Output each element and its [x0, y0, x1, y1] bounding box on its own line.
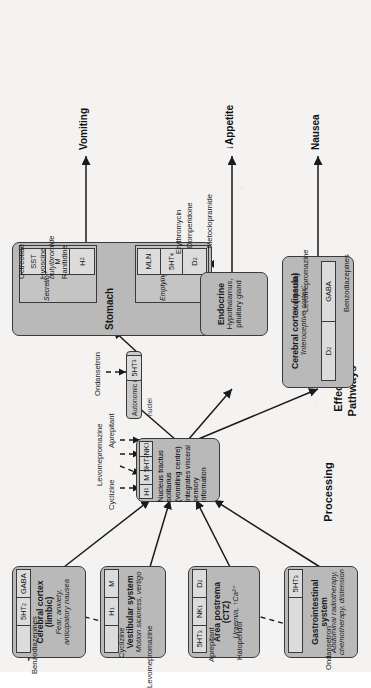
- node-gastrointestinal-system[interactable]: 5HT3 Gastrointestinal system Abdominal r…: [284, 566, 358, 658]
- drug-label-benzodiazepines-limbic: Benzodiazepines: [31, 616, 39, 674]
- drug-label-haloperidol-insula: Haloperidol: [292, 274, 300, 312]
- receptor-amn-5ht3[interactable]: 5HT3: [126, 355, 142, 381]
- node-area-postrema[interactable]: 5HT3 NK1 D2 Area postrema (CTZ) Uraemia,…: [188, 566, 260, 658]
- section-label-processing: Processing: [322, 452, 334, 532]
- receptor-insula-d2[interactable]: D2: [322, 321, 335, 380]
- node-cerebral-cortex-limbic[interactable]: 5HT2 GABA Cerebral cortex (limbic) Fear,…: [12, 566, 86, 658]
- drug-label-domperidone-stomach: Domperidone: [186, 202, 194, 248]
- node-sub-endocrine-2: pituitary gland: [235, 273, 244, 335]
- output-label-appetite: ↓Appetite: [224, 105, 235, 150]
- node-sub-nts-1: Integrates visceral sensory: [184, 438, 200, 502]
- nts-text-block: Nucleus tractus solitarius (vomiting cen…: [157, 438, 208, 502]
- drug-label-cyclizine-vestibular: Cyclizine: [118, 628, 126, 658]
- drug-label-levomepromazine-insula: Levomepromazine: [302, 250, 310, 312]
- output-label-vomiting: Vomiting: [78, 108, 89, 150]
- drug-label-cyclizine-nts: Cyclizine: [108, 480, 116, 510]
- receptor-nts-m[interactable]: M: [140, 470, 152, 484]
- drug-label-metoclopramide-stomach: Metoclopramide: [206, 194, 214, 248]
- receptor-gi-blank[interactable]: [289, 597, 302, 652]
- receptor-stomach-mln[interactable]: MLN: [138, 249, 161, 274]
- drug-label-hyoscine-butylbromide-2: butylbromide: [48, 236, 56, 279]
- receptor-nts-nk1[interactable]: NK1: [140, 442, 152, 456]
- node-title-nts-1: Nucleus tractus solitarius: [157, 438, 174, 502]
- receptor-ctz-5ht3[interactable]: 5HT3: [193, 625, 206, 652]
- node-sub-limbic-2: anticipatory nausea: [63, 567, 72, 657]
- receptor-row-limbic: 5HT2 GABA: [16, 569, 31, 653]
- drug-label-aprepitant-ctz: Aprepitant: [208, 627, 216, 662]
- edge-triggers-to-nts: [64, 500, 320, 567]
- drug-label-erythromycin-stomach: Erythromycin: [175, 210, 183, 254]
- drug-label-aprepitant-nts: Aprepitant: [108, 413, 116, 448]
- receptor-insula-gaba[interactable]: GABA: [322, 262, 335, 321]
- receptor-row-gi: 5HT3: [288, 569, 303, 653]
- drug-label-levomepromazine-nts: Levomepromazine: [96, 424, 104, 486]
- receptor-ctz-d2[interactable]: D2: [193, 570, 206, 597]
- receptor-ctz-nk1[interactable]: NK1: [193, 597, 206, 624]
- receptor-vestibular-m[interactable]: M: [105, 570, 118, 597]
- node-sub-nts-2: information: [200, 438, 208, 502]
- receptor-row-secretions: SST M H2: [21, 248, 95, 275]
- group-label-secretions: Secretions: [43, 277, 50, 301]
- group-label-emptying: Emptying: [159, 277, 166, 301]
- receptor-nts-5ht2[interactable]: 5HT2: [140, 456, 152, 471]
- receptor-gi-5ht3[interactable]: 5HT3: [289, 570, 302, 597]
- receptor-stomach-d2[interactable]: D2: [183, 249, 206, 274]
- node-vestibular-system[interactable]: H1 M Vestibular system Motion sickness, …: [100, 566, 166, 658]
- drug-label-benzodiazepines-insula: Benzodiazepines: [343, 254, 351, 312]
- edge-nts-to-effectors: [130, 389, 318, 440]
- drug-label-levomepromazine-vestibular: Levomepromazine: [146, 626, 154, 688]
- output-label-nausea: Nausea: [310, 114, 321, 150]
- receptor-vestibular-h1[interactable]: H1: [105, 597, 118, 624]
- drug-label-ondansetron-amn: Ondansetron: [94, 352, 102, 396]
- receptor-row-nts: H1 M 5HT2 NK1: [139, 441, 153, 499]
- drug-label-ondansetron-gi: Ondansetron: [325, 626, 333, 670]
- receptor-limbic-5ht2[interactable]: 5HT2: [17, 597, 30, 624]
- receptor-row-insula: D2 GABA: [321, 261, 336, 381]
- node-sub-gi-2: chemotherapy, distension: [338, 567, 347, 657]
- drug-label-octreotide-stomach: Octreotide: [18, 244, 26, 279]
- receptor-limbic-gaba[interactable]: GABA: [17, 570, 30, 597]
- node-title-nts-2: (vomiting centre): [174, 438, 182, 502]
- receptor-row-emptying: MLN 5HT4 D2: [137, 248, 207, 275]
- node-title-stomach: Stomach: [105, 300, 114, 330]
- node-endocrine[interactable]: Endocrine Hypothalamus, pituitary gland: [200, 272, 268, 336]
- receptor-row-ctz: 5HT3 NK1 D2: [192, 569, 207, 653]
- drug-label-ranitidine-stomach: Ranitidine: [61, 245, 69, 279]
- drug-label-haloperidol-ctz: Haloperidol: [236, 622, 244, 660]
- receptor-limbic-blank[interactable]: [17, 625, 30, 652]
- node-sub-vestibular-1: Motion sickness, vertigo: [135, 567, 144, 657]
- receptor-nts-h1[interactable]: H1: [140, 484, 152, 498]
- receptor-stomach-h2[interactable]: H2: [70, 249, 94, 274]
